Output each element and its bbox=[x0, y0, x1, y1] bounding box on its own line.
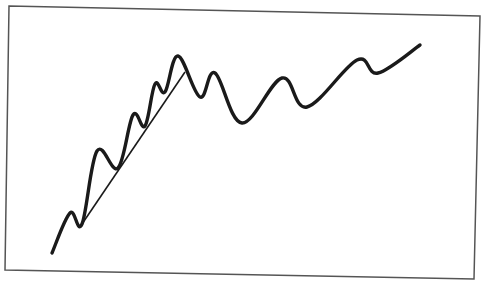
chart-figure bbox=[0, 0, 486, 281]
chart-frame bbox=[5, 6, 480, 279]
price-line bbox=[52, 45, 420, 253]
trendline bbox=[82, 72, 185, 224]
line-chart bbox=[0, 0, 486, 281]
